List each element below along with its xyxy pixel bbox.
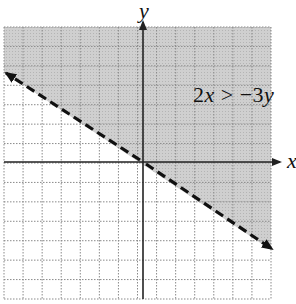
x-axis-label: x bbox=[287, 148, 296, 174]
ineq-coef: 2 bbox=[193, 82, 205, 107]
inequality-plot bbox=[0, 0, 296, 304]
y-axis-label: y bbox=[139, 0, 149, 24]
inequality-annotation: 2x > −3y bbox=[193, 82, 274, 108]
ineq-var-x: x bbox=[205, 82, 215, 107]
ineq-op: > −3 bbox=[215, 82, 264, 107]
ineq-var-y: y bbox=[264, 82, 274, 107]
